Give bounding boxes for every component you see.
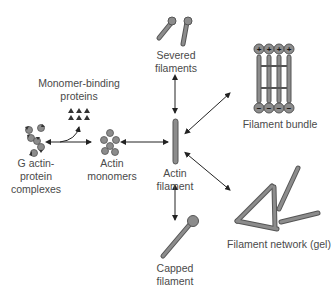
- label-severed-filaments: Severed filaments: [150, 49, 202, 75]
- arrow-filament-bundle: [188, 93, 230, 131]
- svg-text:+: +: [277, 45, 282, 54]
- severed-filaments-icon: [159, 17, 192, 44]
- svg-text:−: −: [267, 104, 272, 113]
- svg-text:−: −: [257, 104, 262, 113]
- label-g-actin-protein-complexes: G actin- protein complexes: [6, 157, 66, 196]
- capped-filament-icon: [163, 216, 199, 257]
- label-filament-network: Filament network (gel): [226, 238, 332, 251]
- svg-text:+: +: [287, 45, 292, 54]
- label-actin-filament: Actin filament: [150, 167, 200, 193]
- actin-monomers-icon: [101, 130, 120, 156]
- actin-filament-icon: [173, 119, 178, 164]
- svg-text:+: +: [257, 45, 262, 54]
- label-actin-monomers: Actin monomers: [84, 157, 140, 183]
- g-actin-protein-complexes-icon: [25, 124, 45, 157]
- svg-text:+: +: [267, 45, 272, 54]
- arrow-to-monomer-binding-proteins: [60, 127, 79, 142]
- filament-network-icon: [237, 168, 318, 229]
- label-capped-filament: Capped filament: [150, 262, 200, 288]
- label-filament-bundle: Filament bundle: [228, 118, 332, 131]
- filament-bundle-icon: + + + + − − − −: [254, 44, 294, 113]
- monomer-binding-proteins-icon: [68, 108, 90, 120]
- svg-text:−: −: [277, 104, 282, 113]
- label-monomer-binding-proteins: Monomer-binding proteins: [30, 77, 128, 103]
- svg-text:−: −: [287, 104, 292, 113]
